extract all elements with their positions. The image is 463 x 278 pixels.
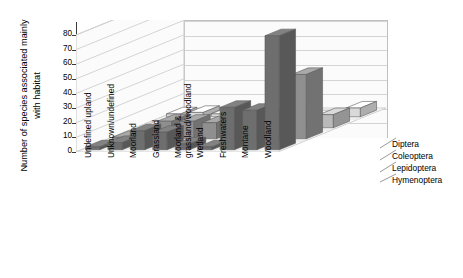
- legend-item: Lepidoptera: [392, 162, 463, 174]
- y-tick-mark: [72, 94, 76, 95]
- x-tick-label: Grassland: [152, 120, 162, 158]
- y-tick-mark: [72, 64, 76, 65]
- x-tick-label: Wetland: [196, 127, 206, 158]
- y-tick-mark: [72, 35, 76, 36]
- legend-item: Coleoptera: [392, 150, 463, 162]
- x-tick-label: Undefined upland: [84, 92, 94, 158]
- y-tick-mark: [72, 152, 76, 153]
- y-tick-mark: [72, 79, 76, 80]
- x-tick-label: Freshwaters: [219, 112, 229, 158]
- x-tick-label: Unknown/undefined: [107, 84, 117, 158]
- y-tick-mark: [72, 108, 76, 109]
- legend-item: Diptera: [392, 138, 463, 150]
- x-tick-label: Woodland: [264, 120, 274, 158]
- chart-figure: Number of species associated mainly with…: [0, 0, 463, 278]
- y-tick-mark: [72, 50, 76, 51]
- x-tick-label: Montane: [241, 125, 251, 158]
- x-tick-label: Moorland & grassland/woodland: [174, 86, 193, 158]
- legend-item: Hymenoptera: [392, 174, 463, 186]
- legend: DipteraColeopteraLepidopteraHymenoptera: [392, 138, 463, 186]
- x-tick-label: Moorland: [129, 123, 139, 158]
- y-tick-mark: [72, 123, 76, 124]
- y-tick-mark: [72, 137, 76, 138]
